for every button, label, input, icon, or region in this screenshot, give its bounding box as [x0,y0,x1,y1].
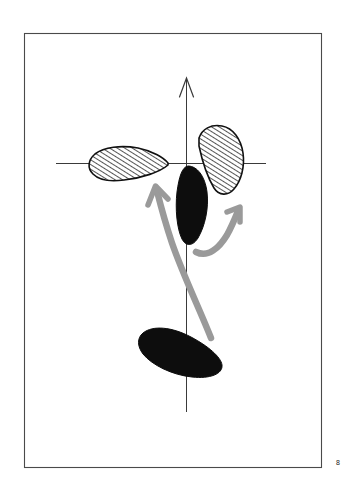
page-number: 8 [336,459,340,467]
figure-page: 8 [0,0,345,498]
figure-illustration [0,0,345,498]
